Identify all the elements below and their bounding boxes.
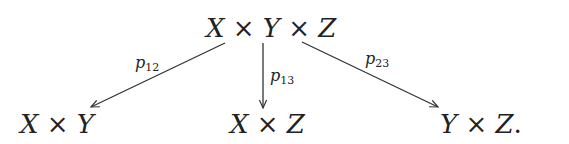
commutative-diagram: X × Y × Z p12 p13 p23 X × Y X × Z Y × Z. — [0, 0, 569, 144]
label-p12: p12 — [135, 53, 159, 74]
var-z: Z — [317, 13, 337, 43]
var-x: X — [204, 13, 226, 43]
node-top: X × Y × Z — [204, 13, 337, 43]
label-p13: p13 — [270, 66, 294, 87]
node-left: X × Y — [18, 109, 97, 139]
times-symbol: × — [280, 13, 318, 43]
node-right: Y × Z. — [440, 109, 522, 139]
arrow-p12 — [91, 43, 225, 107]
node-middle: X × Z — [228, 109, 306, 139]
times-symbol: × — [225, 13, 263, 43]
label-p23: p23 — [365, 49, 389, 70]
